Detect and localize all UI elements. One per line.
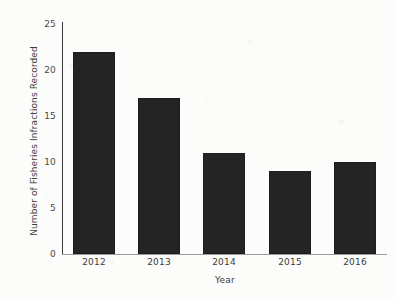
bar-2014[interactable]: [203, 153, 245, 254]
bar-slot-2012: [63, 24, 125, 254]
bar-2013[interactable]: [138, 98, 180, 254]
x-tick-label-2016: 2016: [324, 258, 386, 267]
bar-slot-2013: [128, 24, 190, 254]
x-tick-label-2014: 2014: [193, 258, 255, 267]
x-tick-label-2013: 2013: [128, 258, 190, 267]
bars-container: [63, 24, 387, 254]
y-tick-label-25: 25: [32, 20, 56, 29]
x-axis-title: Year: [63, 275, 387, 285]
bar-2016[interactable]: [334, 162, 376, 254]
bar-slot-2016: [324, 24, 386, 254]
y-axis-tick-labels: 25 20 15 10 5 0: [28, 0, 56, 298]
y-tick-label-0: 0: [32, 250, 56, 259]
bar-chart-figure: Number of Fisheries Infractions Recorded…: [0, 0, 397, 298]
bar-2015[interactable]: [269, 171, 311, 254]
x-axis-spine: [62, 254, 387, 255]
y-tick-label-5: 5: [32, 204, 56, 213]
x-tick-label-2012: 2012: [63, 258, 125, 267]
y-tick-label-20: 20: [32, 66, 56, 75]
x-axis-tick-labels: 2012 2013 2014 2015 2016: [63, 258, 387, 274]
bar-slot-2014: [193, 24, 255, 254]
bar-slot-2015: [259, 24, 321, 254]
x-tick-label-2015: 2015: [259, 258, 321, 267]
y-tick-label-15: 15: [32, 112, 56, 121]
y-tick-label-10: 10: [32, 158, 56, 167]
bar-2012[interactable]: [73, 52, 115, 254]
